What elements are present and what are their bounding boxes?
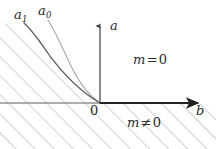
- region-label-m-nonzero-value: 0: [153, 115, 161, 130]
- region-label-m-zero-symbol: m: [133, 52, 145, 67]
- curve-label-a0-subscript: 0: [46, 10, 51, 20]
- curve-label-a0: a0: [38, 4, 51, 17]
- curve-label-a1-subscript: 1: [22, 14, 27, 24]
- diagram-canvas: [0, 0, 216, 149]
- region-label-m-zero-value: 0: [159, 52, 167, 67]
- region-label-m-nonzero-symbol: m: [127, 115, 139, 130]
- region-label-m-zero-operator: =: [145, 52, 159, 67]
- region-label-m-nonzero-operator: ≠: [139, 115, 153, 130]
- a-axis-label: a: [110, 19, 118, 32]
- origin-label: 0: [90, 104, 98, 117]
- curve-label-a1: a1: [14, 8, 27, 21]
- stability-diagram-figure: a1 a0 a b 0 m=0 m≠0: [0, 0, 216, 149]
- curve-label-a0-base: a: [38, 3, 46, 18]
- b-axis-label: b: [196, 104, 204, 117]
- curve-label-a1-base: a: [14, 7, 22, 22]
- region-label-m-zero: m=0: [133, 53, 167, 66]
- region-label-m-nonzero: m≠0: [127, 116, 161, 129]
